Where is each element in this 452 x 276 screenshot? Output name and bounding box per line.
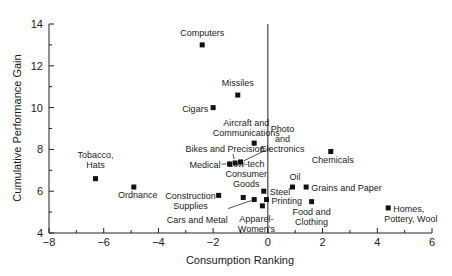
data-point xyxy=(304,185,309,190)
point-label: Homes,Pottery, Wool xyxy=(384,204,437,224)
data-point xyxy=(252,197,257,202)
x-axis-label: Consumption Ranking xyxy=(186,254,294,266)
data-point xyxy=(328,149,333,154)
point-label: Tobacco,Hats xyxy=(77,150,113,170)
y-axis-label: Cumulative Performance Gain xyxy=(11,54,23,201)
x-tick-label: 6 xyxy=(429,236,435,248)
point-label: Cigars xyxy=(182,104,209,114)
point-label: Bikes and Precision xyxy=(186,144,265,154)
data-point xyxy=(241,195,246,200)
y-tick-label: 6 xyxy=(37,185,43,197)
data-point xyxy=(235,93,240,98)
point-label: Food andClothing xyxy=(293,207,331,227)
x-tick-label: 4 xyxy=(374,236,380,248)
data-point xyxy=(131,185,136,190)
data-point xyxy=(93,176,98,181)
data-point xyxy=(386,205,391,210)
data-point xyxy=(211,105,216,110)
point-label: Low-techConsumerGoods xyxy=(225,159,267,189)
point-label: Chemicals xyxy=(312,155,355,165)
point-label: Printing xyxy=(271,196,302,206)
point-label: Computers xyxy=(180,28,225,38)
scatter-chart: −8−6−4−20246468101214 ComputersMissilesC… xyxy=(0,0,452,276)
data-point xyxy=(260,203,265,208)
point-labels: ComputersMissilesCigarsAircraft andCommu… xyxy=(77,28,437,234)
x-tick-label: −4 xyxy=(152,236,165,248)
point-label: Grains and Paper xyxy=(311,183,382,193)
data-point xyxy=(200,42,205,47)
data-point xyxy=(264,197,269,202)
point-label: Oil xyxy=(289,172,300,182)
y-tick-label: 4 xyxy=(37,227,43,239)
point-label: ConstructionSupplies xyxy=(165,191,216,211)
y-tick-label: 14 xyxy=(31,18,43,30)
y-tick-label: 8 xyxy=(37,143,43,155)
x-tick-label: −6 xyxy=(97,236,110,248)
x-tick-label: 0 xyxy=(265,236,271,248)
x-tick-label: −8 xyxy=(43,236,56,248)
data-point xyxy=(309,199,314,204)
point-label: Medical xyxy=(190,160,221,170)
y-tick-label: 10 xyxy=(31,102,43,114)
point-label: Apparel-Women's xyxy=(238,214,276,234)
data-point xyxy=(261,189,266,194)
x-tick-label: −2 xyxy=(207,236,220,248)
point-label: Ordnance xyxy=(118,190,158,200)
data-point xyxy=(290,185,295,190)
data-point xyxy=(216,193,221,198)
y-tick-label: 12 xyxy=(31,60,43,72)
x-tick-label: 2 xyxy=(320,236,326,248)
point-label: Missiles xyxy=(222,78,255,88)
point-label: Cars and Metal xyxy=(167,215,228,225)
